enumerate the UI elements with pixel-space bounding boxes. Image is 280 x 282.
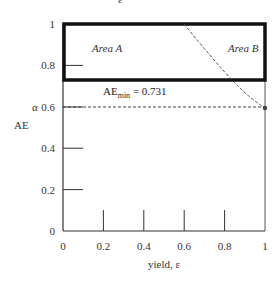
y-axis-label: AE <box>14 119 29 131</box>
svg-text:0.2: 0.2 <box>41 184 55 196</box>
x-ticks <box>103 210 224 231</box>
svg-text:0.8: 0.8 <box>218 240 232 252</box>
svg-text:0: 0 <box>50 225 56 237</box>
endpoint-marker <box>263 106 267 110</box>
cropped-title-fragment: ε <box>118 0 123 5</box>
svg-text:1: 1 <box>50 18 56 30</box>
ae-min-annotation: AEmin = 0.731 <box>103 85 167 100</box>
x-axis-label: yield, ε <box>148 258 180 270</box>
svg-text:0.6: 0.6 <box>41 101 55 113</box>
alpha-label: α <box>32 101 38 113</box>
ae-curve <box>184 24 265 108</box>
svg-text:0.4: 0.4 <box>41 142 55 154</box>
svg-text:0.4: 0.4 <box>137 240 151 252</box>
svg-text:0.2: 0.2 <box>97 240 111 252</box>
svg-text:0.8: 0.8 <box>41 59 55 71</box>
svg-text:0.6: 0.6 <box>177 240 191 252</box>
y-ticks <box>63 65 83 189</box>
y-tick-labels: 0 0.2 0.4 0.6 0.8 1 <box>41 18 55 237</box>
chart-canvas: ε Area A Area B AEmin = 0.731 0 0.2 0.4 … <box>0 0 280 282</box>
x-tick-labels: 0 0.2 0.4 0.6 0.8 1 <box>60 240 268 252</box>
svg-text:1: 1 <box>262 240 268 252</box>
area-a-label: Area A <box>91 42 123 54</box>
svg-text:0: 0 <box>60 240 66 252</box>
area-b-label: Area B <box>227 42 259 54</box>
